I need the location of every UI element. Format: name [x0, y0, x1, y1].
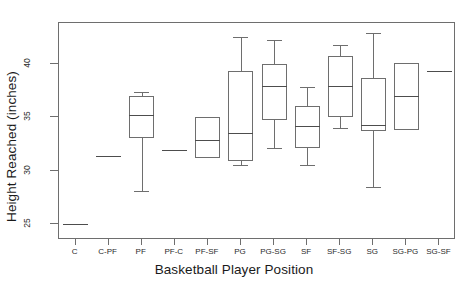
boxplot-lower-cap [267, 148, 282, 149]
boxplot-iqr-box [195, 117, 220, 158]
boxplot-lower-whisker [142, 138, 143, 190]
y-axis-tick [50, 223, 58, 224]
boxplot-upper-whisker [307, 87, 308, 106]
x-axis-tick [240, 239, 241, 245]
boxplot-upper-whisker [340, 45, 341, 56]
x-axis-tick [372, 239, 373, 245]
boxplot-figure: Height Reached (inches) 25303540 CC-PFPF… [0, 0, 468, 293]
x-axis-tick [141, 239, 142, 245]
y-axis-tick [50, 116, 58, 117]
boxplot-iqr-box [361, 78, 386, 131]
boxplot-median-line [427, 71, 452, 72]
boxplot-median-line [394, 96, 419, 97]
x-axis-tick [174, 239, 175, 245]
x-axis-tick [75, 239, 76, 245]
x-axis-tick [339, 239, 340, 245]
boxplot-lower-cap [134, 191, 149, 192]
y-axis-tick-label: 35 [21, 99, 33, 133]
boxplot-upper-whisker [274, 40, 275, 64]
boxplot-upper-cap [333, 45, 348, 46]
boxplot-median-line [129, 115, 154, 116]
boxplot-upper-whisker [241, 37, 242, 71]
boxplot-lower-whisker [340, 117, 341, 128]
boxplot-lower-whisker [274, 120, 275, 148]
boxplot-upper-cap [267, 40, 282, 41]
boxplot-upper-cap [134, 92, 149, 93]
x-axis-tick [108, 239, 109, 245]
boxplot-lower-cap [366, 187, 381, 188]
boxplot-median-line [195, 140, 220, 141]
y-axis-tick-label: 30 [21, 153, 33, 187]
boxplot-median-line [262, 86, 287, 87]
boxplot-median-line [63, 224, 88, 225]
boxplot-median-line [328, 86, 353, 87]
boxplot-median-line [295, 126, 320, 127]
boxplot-upper-cap [233, 37, 248, 38]
boxplot-lower-whisker [307, 148, 308, 165]
boxplot-iqr-box [262, 64, 287, 121]
boxplot-median-line [228, 133, 253, 134]
boxplot-lower-cap [233, 165, 248, 166]
boxplot-upper-cap [300, 87, 315, 88]
boxplot-upper-whisker [373, 33, 374, 78]
boxplot-iqr-box [228, 71, 253, 161]
y-axis-tick-label: 40 [21, 46, 33, 80]
y-axis-tick-label: 25 [21, 206, 33, 240]
boxplot-median-line [361, 125, 386, 126]
x-axis-tick [405, 239, 406, 245]
x-axis-title: Basketball Player Position [0, 262, 468, 277]
x-axis-tick [207, 239, 208, 245]
x-axis-tick [273, 239, 274, 245]
boxplot-lower-cap [333, 128, 348, 129]
y-axis-tick [50, 170, 58, 171]
y-axis-title: Height Reached (inches) [0, 0, 22, 293]
boxplot-lower-whisker [373, 131, 374, 187]
plot-area [58, 22, 455, 239]
boxplot-median-line [96, 156, 121, 157]
boxplot-iqr-box [129, 96, 154, 139]
x-axis-tick [438, 239, 439, 245]
x-axis-tick-label: SG-SF [411, 247, 465, 256]
boxplot-upper-cap [366, 33, 381, 34]
boxplot-median-line [162, 150, 187, 151]
y-axis-tick [50, 63, 58, 64]
x-axis-tick [306, 239, 307, 245]
boxplot-lower-cap [300, 165, 315, 166]
boxplot-iqr-box [295, 106, 320, 148]
